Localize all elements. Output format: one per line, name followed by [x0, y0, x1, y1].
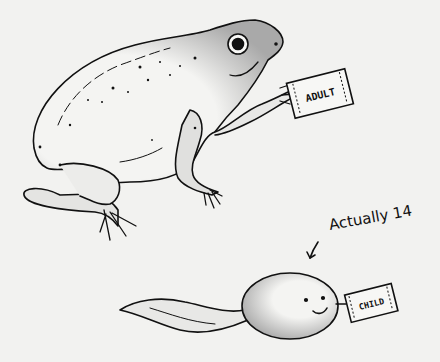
tadpole-tail [120, 299, 248, 332]
annotation-text: Actually 14 [328, 202, 414, 234]
illustration-canvas: ADULT Actually 14 CHILD [0, 0, 440, 362]
tadpole [120, 273, 346, 339]
adult-tag: ADULT [286, 69, 353, 118]
child-tag: CHILD [345, 284, 398, 323]
tadpole-head [242, 273, 338, 339]
frog-illustration: ADULT Actually 14 CHILD [0, 0, 440, 362]
arrow-down-left-icon [307, 242, 318, 258]
frog [24, 20, 294, 240]
